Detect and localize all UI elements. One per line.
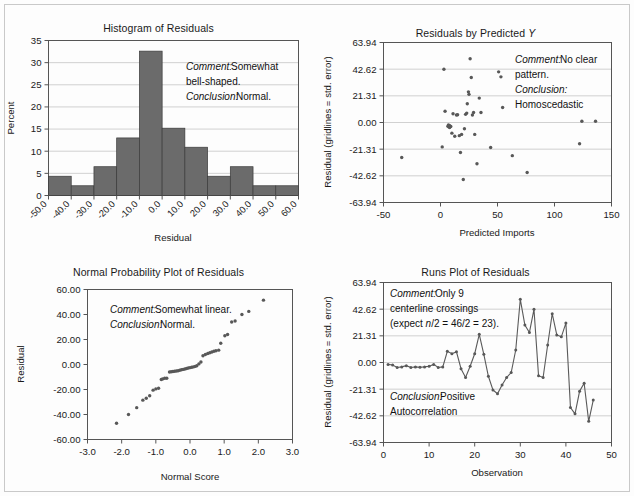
- histogram-bars: [49, 51, 299, 195]
- scatter-point: [226, 333, 229, 336]
- scatter-point: [240, 313, 243, 316]
- scatter-point: [475, 162, 478, 165]
- scatter-point: [470, 76, 473, 79]
- runs-point: [546, 343, 549, 346]
- histogram-x-ticks: -50.0-40.0-30.0-20.0-10.00.010.020.030.0…: [27, 196, 299, 221]
- tick-label: -20.0: [95, 199, 117, 221]
- scatter-point: [442, 68, 445, 71]
- tick-label: -42.62: [349, 410, 376, 421]
- runs-point: [469, 365, 472, 368]
- scatter-point: [145, 397, 148, 400]
- scatter-point: [127, 413, 130, 416]
- histogram-bar: [71, 186, 94, 196]
- scatter-point: [580, 120, 583, 123]
- residuals-comment-label: Comment:: [515, 54, 561, 65]
- scatter-point: [578, 142, 581, 145]
- runs-point: [528, 331, 531, 334]
- runs-point: [569, 406, 572, 409]
- runs-point: [432, 363, 435, 366]
- tick-label: 0.0: [183, 446, 196, 457]
- runs-point: [441, 365, 444, 368]
- tick-label: 150: [603, 209, 619, 220]
- runs-point: [537, 374, 540, 377]
- normprob-title: Normal Probability Plot of Residuals: [0, 266, 317, 278]
- tick-label: 100: [546, 209, 562, 220]
- scatter-point: [459, 151, 462, 154]
- runs-point: [592, 399, 595, 402]
- tick-label: 0.00: [358, 357, 377, 368]
- runs-point: [501, 384, 504, 387]
- runs-x-ticks: 01020304050: [381, 443, 617, 460]
- normprob-conclusion-label: Conclusion:: [110, 319, 162, 330]
- tick-label: 30.0: [211, 199, 231, 219]
- runs-point: [532, 308, 535, 311]
- runs-point: [514, 348, 517, 351]
- scatter-point: [466, 102, 469, 105]
- runs-point: [387, 363, 390, 366]
- runs-comment-text: Only 9: [435, 288, 464, 299]
- scatter-point: [157, 387, 160, 390]
- tick-label: -3.0: [79, 446, 96, 457]
- histogram-conclusion-label: Conclusion:: [186, 91, 238, 102]
- runs-point: [482, 353, 485, 356]
- tick-label: 50: [492, 209, 503, 220]
- runs-point: [437, 366, 440, 369]
- runs-point: [505, 376, 508, 379]
- runs-point: [587, 420, 590, 423]
- runs-point: [491, 389, 494, 392]
- residuals-comment-text2: pattern.: [515, 69, 549, 80]
- runs-comment3-post: /2 = 46/2 = 23).: [431, 318, 499, 329]
- runs-point: [446, 350, 449, 353]
- runs-point: [473, 352, 476, 355]
- runs-point: [564, 322, 567, 325]
- tick-label: -40.0: [50, 199, 72, 221]
- tick-label: 0.00: [62, 359, 81, 370]
- scatter-point: [489, 146, 492, 149]
- scatter-point: [479, 111, 482, 114]
- scatter-point: [199, 360, 202, 363]
- runs-points: [387, 298, 595, 423]
- histogram-comment-label: Comment:: [186, 61, 232, 72]
- scatter-point: [478, 96, 481, 99]
- scatter-point: [473, 133, 476, 136]
- runs-point: [418, 366, 421, 369]
- runs-point: [391, 364, 394, 367]
- scatter-point: [247, 310, 250, 313]
- runs-conclusion-label: Conclusion:: [390, 391, 442, 402]
- tick-label: 10.0: [165, 199, 185, 219]
- scatter-point: [217, 348, 220, 351]
- runs-point: [450, 352, 453, 355]
- tick-label: 20: [469, 449, 480, 460]
- histogram-xlabel: Residual: [154, 232, 191, 243]
- scatter-point: [135, 406, 138, 409]
- tick-label: -1.0: [148, 446, 165, 457]
- panel-runs-plot: Runs Plot of Residuals 01020304050 -63.9…: [317, 248, 634, 496]
- tick-label: 3.0: [286, 446, 299, 457]
- scatter-point: [462, 178, 465, 181]
- residuals-x-ticks: -50050100150: [377, 203, 620, 220]
- runs-point: [510, 371, 513, 374]
- normprob-conclusion-text: Normal.: [160, 319, 195, 330]
- runs-point: [478, 333, 481, 336]
- tick-label: 5: [36, 168, 41, 179]
- tick-label: 0: [438, 209, 443, 220]
- scatter-point: [443, 110, 446, 113]
- tick-label: -50: [377, 209, 391, 220]
- residuals-comment-text: No clear: [560, 54, 598, 65]
- histogram-comment-text2: bell-shaped.: [186, 76, 240, 87]
- tick-label: -63.94: [349, 197, 377, 208]
- tick-label: -20.00: [53, 384, 80, 395]
- histogram-y-ticks: 05101520253035: [31, 35, 49, 201]
- histogram-bar: [94, 167, 117, 196]
- tick-label: 1.0: [217, 446, 230, 457]
- panel-normal-probability: Normal Probability Plot of Residuals -3.…: [0, 248, 317, 496]
- histogram-bar: [117, 138, 140, 196]
- scatter-point: [453, 135, 456, 138]
- tick-label: 30: [31, 57, 42, 68]
- normprob-comment-label: Comment:: [110, 304, 156, 315]
- tick-label: 21.31: [352, 330, 376, 341]
- scatter-point: [594, 120, 597, 123]
- runs-point: [496, 392, 499, 395]
- tick-label: 0.00: [358, 117, 377, 128]
- histogram-ylabel: Percent: [5, 101, 16, 134]
